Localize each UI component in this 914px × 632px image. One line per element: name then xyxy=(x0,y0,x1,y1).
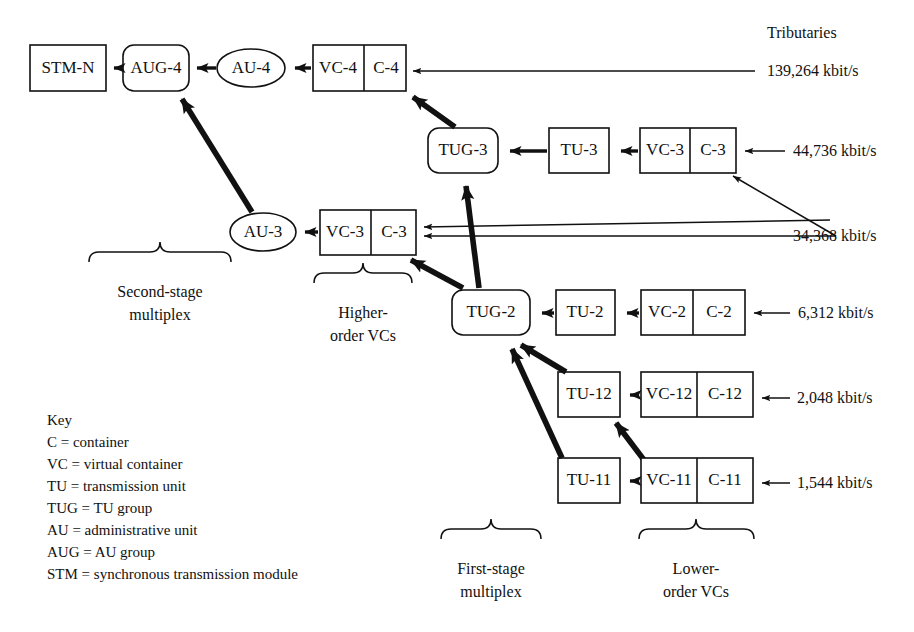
brace-label-second-stage-1: Second-stage xyxy=(117,283,202,301)
brace-lower-order-vcs xyxy=(639,519,754,539)
node-au-4-label: AU-4 xyxy=(232,58,271,77)
node-c-12-label: C-12 xyxy=(708,384,742,403)
key-entry-tug: TUG = TU group xyxy=(47,500,152,516)
node-c-3-high-label: C-3 xyxy=(700,140,726,159)
tributary-label-6312: 6,312 kbit/s xyxy=(798,304,874,321)
arrow-tug2-to-c3low xyxy=(411,260,463,288)
brace-label-higher-order-1: Higher- xyxy=(338,304,387,322)
arrow-tu12-to-tug2 xyxy=(521,345,566,372)
brace-higher-order-vcs xyxy=(314,263,412,283)
node-c-4-label: C-4 xyxy=(373,58,399,77)
node-au-3-label: AU-3 xyxy=(244,222,283,241)
brace-first-stage-multiplex xyxy=(441,519,541,539)
diagram-canvas: Tributaries STM-N AUG-4 AU-4 VC-4 C-4 13… xyxy=(0,0,914,632)
tributary-label-44736: 44,736 kbit/s xyxy=(793,142,877,159)
tributary-label-2048: 2,048 kbit/s xyxy=(797,389,873,406)
key-entry-stm: STM = synchronous transmission module xyxy=(47,566,298,582)
brace-label-lower-order-2: order VCs xyxy=(663,583,729,600)
node-tug-3-label: TUG-3 xyxy=(438,140,487,159)
node-vc-3-low-label: VC-3 xyxy=(326,222,364,241)
node-tu-12-label: TU-12 xyxy=(566,384,611,403)
brace-label-second-stage-2: multiplex xyxy=(129,306,190,324)
key-entry-au: AU = administrative unit xyxy=(47,522,198,538)
key-entry-tu: TU = transmission unit xyxy=(47,478,187,494)
brace-second-stage-multiplex xyxy=(89,242,231,262)
node-c-11-label: C-11 xyxy=(708,470,741,489)
sdh-multiplexing-diagram: Tributaries STM-N AUG-4 AU-4 VC-4 C-4 13… xyxy=(0,0,914,632)
brace-label-first-stage-1: First-stage xyxy=(457,560,525,578)
key-entry-vc: VC = virtual container xyxy=(47,456,183,472)
node-vc-12-label: VC-12 xyxy=(646,384,692,403)
tributary-label-139264: 139,264 kbit/s xyxy=(767,62,859,79)
brace-label-first-stage-2: multiplex xyxy=(460,583,521,601)
tributary-label-1544: 1,544 kbit/s xyxy=(797,474,873,491)
arrow-tug2-to-tug3 xyxy=(466,186,479,288)
arrow-tug3-to-c4 xyxy=(413,97,455,127)
node-tug-2-label: TUG-2 xyxy=(466,302,515,321)
node-c-3-low-label: C-3 xyxy=(381,222,407,241)
key-entry-c: C = container xyxy=(47,434,129,450)
node-vc-11-label: VC-11 xyxy=(646,470,692,489)
tributaries-header: Tributaries xyxy=(767,24,837,41)
arrow-vc11-to-tu12 xyxy=(616,423,644,460)
key-title: Key xyxy=(47,412,72,428)
tributary-line-34368-slanted xyxy=(424,220,830,227)
node-vc-2-label: VC-2 xyxy=(648,302,686,321)
key-entry-aug: AUG = AU group xyxy=(47,544,155,560)
tributary-label-34368: 34,368 kbit/s xyxy=(793,227,877,244)
node-c-2-label: C-2 xyxy=(706,302,732,321)
brace-label-lower-order-1: Lower- xyxy=(673,560,720,577)
node-tu-11-label: TU-11 xyxy=(567,470,612,489)
brace-label-higher-order-2: order VCs xyxy=(330,327,396,344)
node-aug-4-label: AUG-4 xyxy=(131,58,182,77)
node-vc-4-label: VC-4 xyxy=(319,58,357,77)
node-tu-3-label: TU-3 xyxy=(561,140,598,159)
node-stm-n-label: STM-N xyxy=(42,58,95,77)
arrow-au3-to-aug4 xyxy=(182,99,252,212)
node-tu-2-label: TU-2 xyxy=(567,302,604,321)
node-vc-3-high-label: VC-3 xyxy=(646,140,684,159)
